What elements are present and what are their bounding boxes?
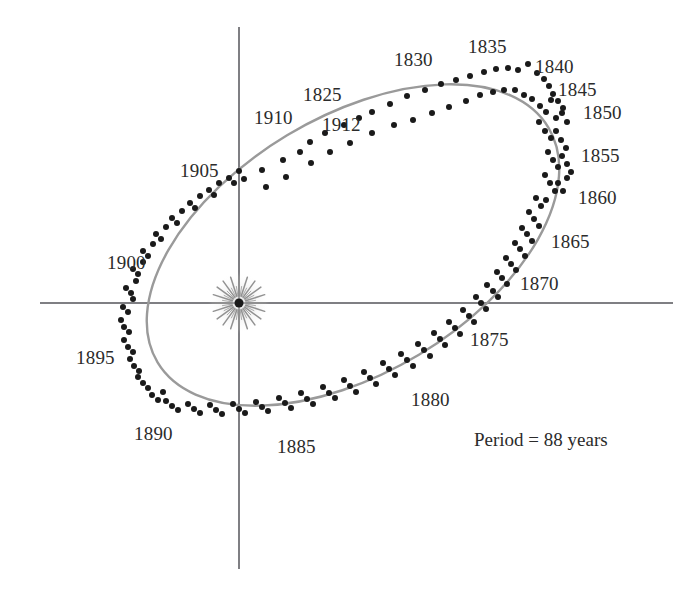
observation-point: [213, 407, 219, 413]
observation-point: [128, 290, 134, 296]
observation-point: [307, 139, 313, 145]
observation-point: [547, 180, 553, 186]
observation-point: [542, 172, 548, 178]
observation-point: [386, 366, 392, 372]
observation-point: [353, 389, 359, 395]
observation-point: [519, 225, 525, 231]
observation-point: [187, 200, 193, 206]
year-label-1890: 1890: [134, 424, 173, 443]
observation-point: [230, 401, 236, 407]
observation-point: [431, 330, 437, 336]
observation-point: [297, 149, 303, 155]
year-label-1912: 1912: [322, 115, 361, 134]
observation-point: [310, 401, 316, 407]
observation-point: [387, 101, 393, 107]
observation-point: [197, 193, 203, 199]
observation-point: [219, 411, 225, 417]
observation-point: [564, 119, 570, 125]
observation-point: [410, 363, 416, 369]
observation-point: [380, 360, 386, 366]
year-label-1875: 1875: [470, 330, 509, 349]
observation-point: [427, 353, 433, 359]
observation-point: [121, 324, 127, 330]
observation-point: [145, 385, 151, 391]
observation-point: [120, 304, 126, 310]
observation-point: [169, 403, 175, 409]
observation-point: [308, 160, 314, 166]
observation-point: [211, 192, 217, 198]
observation-point: [130, 296, 136, 302]
observation-point: [484, 282, 490, 288]
year-label-1840: 1840: [535, 57, 574, 76]
observation-point: [126, 329, 132, 335]
observation-point: [236, 168, 242, 174]
observation-point: [327, 149, 333, 155]
observation-point: [367, 375, 373, 381]
observation-point: [521, 92, 527, 98]
observation-point: [493, 66, 499, 72]
observation-point: [236, 406, 242, 412]
observation-point: [169, 215, 175, 221]
observation-point: [536, 223, 542, 229]
observation-point: [501, 87, 507, 93]
observation-point: [304, 396, 310, 402]
observation-point: [174, 220, 180, 226]
observation-point: [490, 89, 496, 95]
observation-point: [369, 130, 375, 136]
observation-point: [437, 336, 443, 342]
period-annotation: Period = 88 years: [474, 430, 608, 449]
observation-point: [150, 241, 156, 247]
observation-point: [347, 140, 353, 146]
observation-point: [490, 288, 496, 294]
observation-point: [131, 363, 137, 369]
year-label-1910: 1910: [254, 108, 293, 127]
observation-point: [536, 119, 542, 125]
observation-point: [326, 390, 332, 396]
observation-point: [259, 167, 265, 173]
observation-point: [175, 407, 181, 413]
observation-point: [503, 255, 509, 261]
observation-point: [422, 87, 428, 93]
observation-point: [288, 405, 294, 411]
observation-point: [265, 408, 271, 414]
observation-point: [207, 402, 213, 408]
observation-point: [163, 224, 169, 230]
observation-point: [517, 246, 523, 252]
observation-point: [560, 105, 566, 111]
year-label-1865: 1865: [551, 232, 590, 251]
observation-point: [457, 331, 463, 337]
observation-point: [481, 69, 487, 75]
observation-point: [191, 406, 197, 412]
observation-point: [466, 313, 472, 319]
observation-point: [467, 73, 473, 79]
observation-point: [477, 92, 483, 98]
observation-point: [133, 278, 139, 284]
observation-point: [127, 356, 133, 362]
observation-point: [438, 81, 444, 87]
observation-point: [546, 83, 552, 89]
observation-point: [158, 236, 164, 242]
observation-point: [446, 319, 452, 325]
observation-point: [282, 400, 288, 406]
observation-point: [529, 96, 535, 102]
observation-point: [564, 161, 570, 167]
year-label-1905: 1905: [180, 161, 219, 180]
observation-point: [460, 307, 466, 313]
observation-point: [563, 145, 569, 151]
observation-point: [550, 91, 556, 97]
observation-point: [478, 300, 484, 306]
observation-point: [320, 384, 326, 390]
observation-point: [361, 369, 367, 375]
observation-point: [332, 395, 338, 401]
observation-point: [398, 351, 404, 357]
observation-point: [545, 149, 551, 155]
observation-point: [533, 195, 539, 201]
observation-point: [415, 341, 421, 347]
observation-point: [499, 275, 505, 281]
observation-point: [526, 209, 532, 215]
observation-point: [136, 368, 142, 374]
observation-point: [494, 269, 500, 275]
observation-point: [163, 398, 169, 404]
observation-point: [242, 410, 248, 416]
observation-point: [543, 109, 549, 115]
